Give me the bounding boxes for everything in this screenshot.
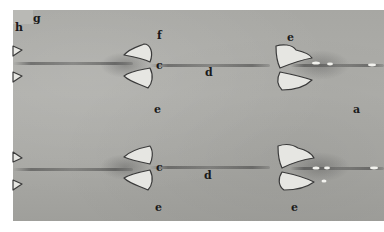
label-d-top: d — [205, 67, 213, 78]
label-e-bottom-left: e — [155, 202, 162, 213]
label-d-bottom: d — [204, 170, 212, 181]
label-g: g — [33, 13, 41, 24]
label-a: a — [353, 104, 360, 115]
label-e-top-right: e — [287, 32, 294, 43]
label-h: h — [15, 22, 23, 33]
label-e-bottom-right: e — [291, 202, 298, 213]
sample-wells — [0, 0, 384, 232]
label-e-middle-left: e — [154, 104, 161, 115]
label-f: f — [157, 30, 162, 41]
label-c-top: c — [156, 60, 163, 71]
label-c-bottom: c — [156, 162, 163, 173]
